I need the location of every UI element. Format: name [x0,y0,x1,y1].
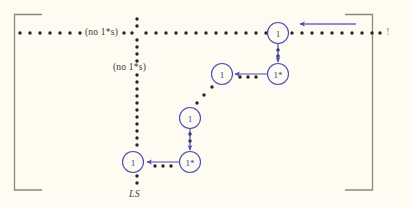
node-mid-1[interactable]: 1 [212,64,233,85]
dotted-line-1star-to-1-low [153,164,172,167]
label-no-ones-mid: (no 1*s) [113,62,146,72]
node-mid-1-label: 1 [220,70,225,80]
dotted-line-top-far-right [290,31,381,34]
node-end-1-label: 1 [131,158,136,168]
node-low-1star[interactable]: 1* [180,152,201,173]
node-top-1star[interactable]: 1* [268,64,289,85]
dotted-line-top-right-run [144,31,267,34]
node-top-1[interactable]: 1 [268,23,289,44]
node-low-1star-label: 1* [186,158,196,168]
label-no-ones-top: (no 1*s) [85,27,118,37]
bracket-left [15,15,43,191]
dotted-line-1star-to-1-top [238,75,257,78]
node-top-1-label: 1 [276,29,281,39]
node-low-1[interactable]: 1 [180,108,201,129]
label-bang: ! [386,25,390,37]
diagram-svg: 1 1* 1 1 1* 1 [0,0,412,207]
node-end-1[interactable]: 1 [123,152,144,173]
node-low-1-label: 1 [188,114,193,124]
label-ls: LS [129,188,140,199]
dotted-line-top-left [18,31,81,34]
dotted-line-diagonal [195,85,213,104]
bracket-right [345,15,373,191]
node-top-1star-label: 1* [274,70,284,80]
figure-canvas: 1 1* 1 1 1* 1 (no 1*s) (no 1*s) LS ! [0,0,412,207]
dotted-line-top-mid [122,31,133,34]
